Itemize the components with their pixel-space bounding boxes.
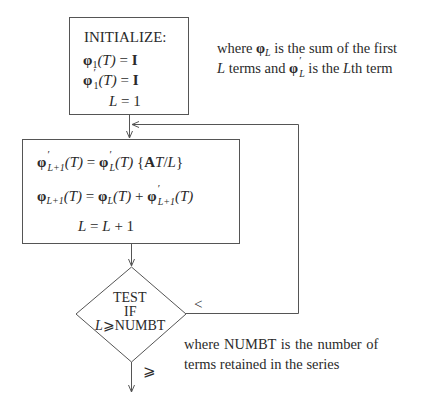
phi-symbol: φ xyxy=(37,154,46,170)
phi-symbol: φ xyxy=(83,72,92,88)
subscript: L+1 xyxy=(46,195,63,206)
brace-close: } xyxy=(176,154,183,170)
brace-open: { xyxy=(133,154,144,170)
argument: (T) xyxy=(98,72,116,88)
init-line-phi1: φ1(T) = I xyxy=(83,53,138,68)
subscript: L+1 xyxy=(46,163,64,173)
prime: ′ xyxy=(93,67,95,78)
phi-symbol: φ xyxy=(99,154,108,170)
phi-symbol: φ xyxy=(147,188,156,204)
phi-symbol: φ xyxy=(83,52,92,68)
subscript: 1 xyxy=(92,81,98,91)
prime: ′ xyxy=(158,183,160,194)
subscript: L+1 xyxy=(157,197,175,207)
phi-symbol: φ xyxy=(37,188,46,204)
loop-back-connector xyxy=(132,125,299,314)
note-text: where xyxy=(217,40,256,56)
prime: ′ xyxy=(299,55,301,66)
equals: = xyxy=(117,93,133,109)
argument: (T) xyxy=(115,154,133,170)
prime-subscript: ′L xyxy=(298,61,305,79)
equals: = xyxy=(83,154,99,170)
init-note-line1: where φL is the sum of the first xyxy=(217,41,397,56)
decision-line-test: TEST xyxy=(113,291,146,305)
prime-subscript: ′L+1 xyxy=(157,189,175,207)
note-text: terms and xyxy=(225,60,289,76)
variable-L: L xyxy=(102,218,110,234)
note-text: is the xyxy=(305,60,343,76)
variable-L: L xyxy=(95,318,103,333)
process-line-3: L = L + 1 xyxy=(78,219,134,234)
identity-matrix: I xyxy=(133,72,139,88)
plus: + xyxy=(131,188,147,204)
process-line-1: φ′L+1(T) = φ′L(T) {AT/L} xyxy=(37,155,183,173)
decision-note-line2: terms retained in the series xyxy=(184,357,339,372)
note-text: th term xyxy=(351,60,392,76)
increment: + 1 xyxy=(111,218,134,234)
equals: = xyxy=(117,72,133,88)
equals: = xyxy=(116,52,132,68)
variable-L: L xyxy=(343,60,351,76)
value: 1 xyxy=(133,93,141,109)
argument: (T) xyxy=(64,188,82,204)
prime-subscript: ′L+1 xyxy=(46,155,64,173)
init-line-L: L = 1 xyxy=(109,94,141,109)
argument: (T) xyxy=(113,188,131,204)
argument: (T) xyxy=(97,52,115,68)
exit-label-greater-equal: ⩾ xyxy=(143,364,156,379)
equals: = xyxy=(86,218,102,234)
init-line-phi1-prime: φ′1(T) = I xyxy=(83,73,139,91)
equals: = xyxy=(82,188,98,204)
init-note-line2: L terms and φ′L is the Lth term xyxy=(217,61,393,79)
identity-matrix: I xyxy=(132,52,138,68)
phi-symbol: φ xyxy=(98,188,107,204)
prime: ′ xyxy=(47,149,49,160)
phi-symbol: φ xyxy=(256,40,265,56)
decision-line-if: IF xyxy=(124,305,136,319)
prime: ′ xyxy=(109,149,111,160)
loop-label-less-than: < xyxy=(194,297,202,312)
process-line-2: φL+1(T) = φL(T) + φ′L+1(T) xyxy=(37,189,193,207)
condition-text: ⩾NUMBT xyxy=(103,318,166,333)
subscript: L xyxy=(108,163,115,173)
init-title: INITIALIZE: xyxy=(84,30,166,45)
prime-subscript: ′1 xyxy=(92,73,98,91)
argument: (T) xyxy=(65,154,83,170)
note-text: is the sum of the first xyxy=(271,40,397,56)
subscript: L xyxy=(298,69,305,79)
variable-L: L xyxy=(217,60,225,76)
prime-subscript: ′L xyxy=(108,155,115,173)
argument: (T) xyxy=(175,188,193,204)
variable-L: L xyxy=(168,154,176,170)
phi-symbol: φ xyxy=(289,60,298,76)
decision-note-line1: where NUMBT is the number of xyxy=(184,337,378,352)
matrix-A: A xyxy=(144,154,155,170)
decision-line-condition: L⩾NUMBT xyxy=(95,319,165,333)
